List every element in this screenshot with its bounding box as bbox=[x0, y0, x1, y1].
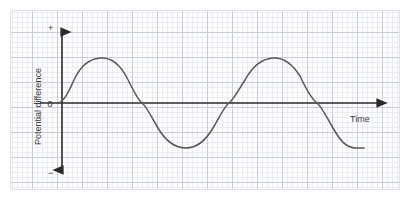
y-axis-negative-label: − bbox=[48, 168, 53, 178]
graph-screenshot: + − 0 Potential difference Time bbox=[0, 0, 410, 201]
y-axis-zero-label: 0 bbox=[47, 99, 52, 109]
x-axis-title: Time bbox=[350, 114, 370, 124]
y-axis-title: Potential difference bbox=[33, 68, 43, 145]
y-axis-positive-label: + bbox=[48, 23, 53, 33]
waveform-plot: + − 0 Potential difference Time bbox=[0, 0, 410, 201]
